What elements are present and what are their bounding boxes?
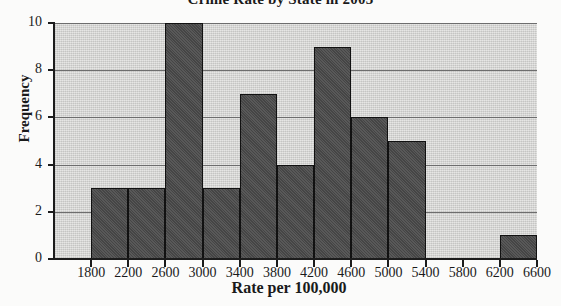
x-axis-line <box>53 258 537 260</box>
y-axis-tick <box>48 116 55 118</box>
gridline <box>54 23 537 24</box>
y-axis-tick <box>48 164 55 166</box>
gridline <box>54 117 537 118</box>
y-axis-tick-label: 0 <box>12 250 42 266</box>
y-axis-tick-label: 6 <box>12 108 42 124</box>
y-axis-tick-label: 10 <box>12 14 42 30</box>
histogram-figure: Crime Rate by State in 2003 Frequency 02… <box>0 0 561 306</box>
histogram-bar <box>91 188 128 259</box>
y-axis-tick <box>48 69 55 71</box>
histogram-bar <box>165 23 202 259</box>
chart-title: Crime Rate by State in 2003 <box>0 0 561 8</box>
y-axis-tick <box>48 211 55 213</box>
y-axis-line <box>53 22 55 260</box>
histogram-bar <box>240 94 277 259</box>
plot-area <box>54 23 537 259</box>
histogram-bar <box>203 188 240 259</box>
y-axis-tick <box>48 22 55 24</box>
gridline <box>54 70 537 71</box>
y-axis-tick-label: 2 <box>12 203 42 219</box>
y-axis-tick-label: 4 <box>12 156 42 172</box>
y-axis-tick-label: 8 <box>12 61 42 77</box>
histogram-bar <box>128 188 165 259</box>
histogram-bar <box>500 235 537 259</box>
histogram-bar <box>314 47 351 259</box>
histogram-bar <box>388 141 425 259</box>
x-axis-title: Rate per 100,000 <box>54 279 524 297</box>
histogram-bar <box>277 165 314 259</box>
y-axis-tick <box>48 258 55 260</box>
histogram-bar <box>351 117 388 259</box>
